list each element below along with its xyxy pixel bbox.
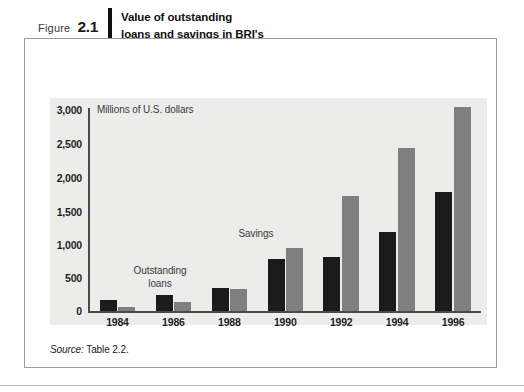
x-tick-1988: 1988 <box>207 316 251 328</box>
bar-loans-1990 <box>268 259 285 311</box>
bar-loans-1984 <box>100 300 117 311</box>
figure-title-line-1: Value of outstanding <box>121 9 264 26</box>
bar-loans-1986 <box>156 295 173 311</box>
source-note: Source: Table 2.2. <box>50 344 129 355</box>
bar-savings-1984 <box>118 307 135 311</box>
x-axis-line <box>88 311 481 313</box>
y-axis-line <box>88 108 90 312</box>
page-bottom-rule <box>0 385 524 386</box>
x-tick-1994: 1994 <box>375 316 419 328</box>
bar-savings-1986 <box>174 302 191 311</box>
annotation-savings: Savings <box>226 228 286 241</box>
bar-savings-1996 <box>454 107 471 311</box>
y-tick-3000: 3,000 <box>40 104 82 116</box>
bar-loans-1992 <box>323 257 340 311</box>
figure-number: 2.1 <box>77 18 98 36</box>
x-tick-1984: 1984 <box>95 316 139 328</box>
annotation-savings-line-1: Savings <box>226 228 286 241</box>
plot-area: Millions of U.S. dollars 3,000 2,500 2,0… <box>50 98 487 325</box>
y-tick-2000: 2,000 <box>40 172 82 184</box>
annotation-loans-line-2: loans <box>120 278 200 291</box>
bar-savings-1992 <box>342 196 359 311</box>
bar-savings-1990 <box>286 248 303 311</box>
chart-panel: Millions of U.S. dollars 3,000 2,500 2,0… <box>50 98 487 325</box>
bar-loans-1994 <box>379 232 396 311</box>
x-tick-1990: 1990 <box>263 316 307 328</box>
y-tick-1000: 1,000 <box>40 239 82 251</box>
source-value: Table 2.2. <box>84 344 129 355</box>
y-tick-2500: 2,500 <box>40 138 82 150</box>
figure-word-label: Figure <box>38 22 70 34</box>
annotation-loans-line-1: Outstanding <box>120 265 200 278</box>
bar-loans-1996 <box>435 192 452 311</box>
bar-savings-1994 <box>398 148 415 311</box>
x-tick-1996: 1996 <box>431 316 475 328</box>
y-tick-0: 0 <box>40 305 82 317</box>
source-label: Source: <box>50 344 84 355</box>
y-axis-unit-caption: Millions of U.S. dollars <box>97 104 194 115</box>
x-tick-1992: 1992 <box>319 316 363 328</box>
bar-loans-1988 <box>212 288 229 311</box>
y-tick-1500: 1,500 <box>40 206 82 218</box>
x-tick-1986: 1986 <box>151 316 195 328</box>
figure-number-group: Figure 2.1 <box>24 6 98 36</box>
y-tick-500: 500 <box>40 272 82 284</box>
bar-savings-1988 <box>230 289 247 311</box>
annotation-outstanding-loans: Outstanding loans <box>120 265 200 290</box>
